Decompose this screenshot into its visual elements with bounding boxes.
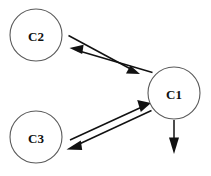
edge-c1-to-c2-arrowhead [70, 45, 84, 54]
node-c2-label: C2 [28, 29, 44, 44]
edge-c1-to-c2-line [78, 51, 153, 73]
edge-c3-to-c1 [70, 100, 151, 140]
node-c1-label: C1 [166, 87, 182, 102]
node-c3-label: C3 [28, 131, 44, 146]
edge-c2-to-c1-line [69, 36, 133, 71]
edge-c1-out-down-arrowhead [169, 138, 179, 155]
edge-c3-to-c1-arrowhead [137, 100, 151, 112]
edge-c1-to-c3-line [76, 111, 152, 146]
edge-c1-to-c3-arrowhead [67, 141, 83, 151]
edge-c3-to-c1-line [70, 107, 143, 141]
diagram-svg: C2 C1 C3 [0, 0, 211, 176]
diagram-canvas: C2 C1 C3 [0, 0, 211, 176]
node-c1[interactable]: C1 [148, 67, 200, 119]
edge-c1-out-down [169, 120, 179, 154]
node-c3[interactable]: C3 [10, 111, 62, 163]
edge-c1-to-c3 [67, 111, 152, 151]
edge-c2-to-c1 [69, 36, 141, 75]
node-c2[interactable]: C2 [10, 9, 62, 61]
